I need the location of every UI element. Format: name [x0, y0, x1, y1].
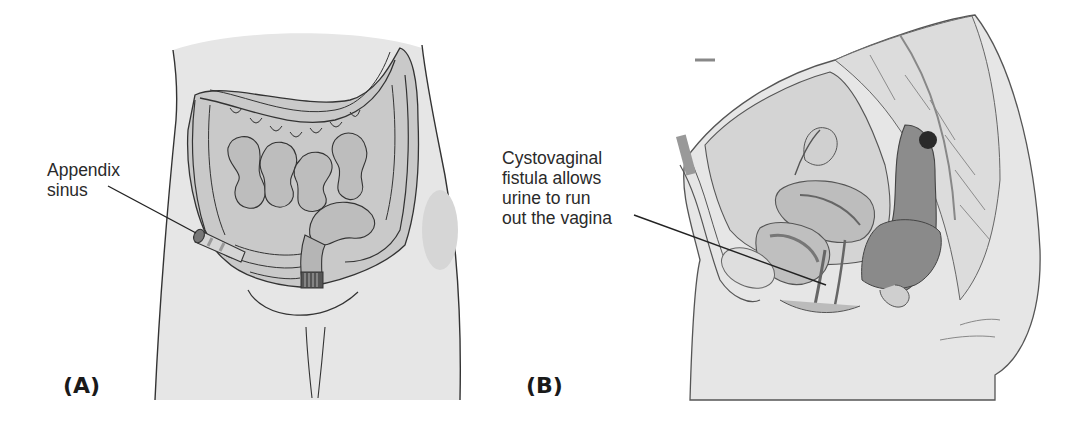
- abdomen-illustration: [0, 0, 520, 430]
- panel-a-tag: (A): [63, 373, 100, 398]
- label-line: fistula allows: [502, 168, 612, 188]
- label-line: urine to run: [502, 188, 612, 208]
- label-line: out the vagina: [502, 208, 612, 228]
- label-line: Appendix: [47, 160, 120, 180]
- appendix-sinus-label: Appendix sinus: [47, 160, 120, 200]
- panel-b: Cystovaginal fistula allows urine to run…: [520, 0, 1067, 430]
- label-line: Cystovaginal: [502, 148, 612, 168]
- cystovaginal-fistula-label: Cystovaginal fistula allows urine to run…: [502, 148, 612, 228]
- panel-a: Appendix sinus (A): [0, 0, 520, 430]
- label-line: sinus: [47, 180, 120, 200]
- panel-b-tag: (B): [526, 373, 563, 398]
